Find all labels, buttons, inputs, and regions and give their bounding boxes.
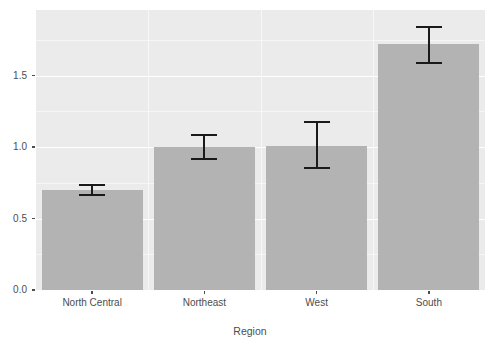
- y-tick-label: 1.5: [0, 71, 27, 81]
- errorbar-cap-lower: [304, 167, 330, 169]
- x-tick-mark: [316, 291, 317, 294]
- bar: [42, 190, 143, 290]
- errorbar-cap-lower: [191, 158, 217, 160]
- x-tick-mark: [91, 291, 92, 294]
- x-tick-mark: [428, 291, 429, 294]
- plot-panel: [36, 10, 485, 290]
- errorbar-stem: [316, 121, 318, 168]
- errorbar-cap-upper: [79, 184, 105, 186]
- x-tick-mark: [204, 291, 205, 294]
- errorbar-stem: [203, 134, 205, 160]
- errorbar-cap-upper: [304, 121, 330, 123]
- y-tick-label: 1.0: [0, 142, 27, 152]
- gridline-vertical: [261, 10, 262, 290]
- gridline-vertical: [373, 10, 374, 290]
- bar-chart: 0.00.51.01.5 North CentralNortheastWestS…: [0, 0, 500, 351]
- y-tick-mark: [32, 289, 35, 290]
- errorbar-cap-lower: [79, 194, 105, 196]
- x-tick-label: Northeast: [183, 297, 226, 308]
- y-tick-label: 0.5: [0, 214, 27, 224]
- bar: [154, 147, 255, 290]
- y-tick-label: 0.0: [0, 285, 27, 295]
- x-tick-label: North Central: [62, 297, 121, 308]
- y-tick-mark: [32, 75, 35, 76]
- errorbar-stem: [428, 26, 430, 65]
- x-axis-title: Region: [0, 325, 500, 337]
- gridline-vertical: [148, 10, 149, 290]
- x-tick-label: West: [305, 297, 328, 308]
- x-tick-label: South: [416, 297, 442, 308]
- errorbar-cap-lower: [416, 62, 442, 64]
- errorbar-cap-upper: [416, 26, 442, 28]
- y-tick-mark: [32, 218, 35, 219]
- errorbar-cap-upper: [191, 134, 217, 136]
- y-tick-mark: [32, 146, 35, 147]
- bar: [378, 44, 479, 290]
